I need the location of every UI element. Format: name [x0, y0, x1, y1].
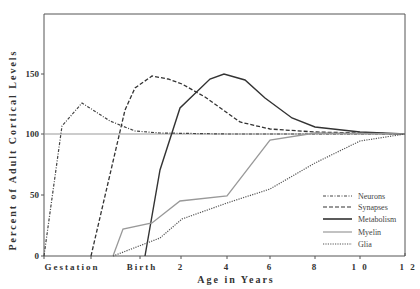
x-tick-label: 1 0: [351, 262, 368, 272]
y-tick-label: 50: [30, 190, 40, 200]
chart: 0 50 100 150 Gestation Birth 2 4 6 8 1 0…: [0, 0, 420, 289]
legend-label-neurons: Neurons: [358, 192, 385, 201]
legend-label-glia: Glia: [358, 240, 372, 249]
x-tick-label: 4: [224, 262, 231, 272]
legend-label-synapses: Synapses: [358, 203, 388, 212]
x-tick-label: 2: [178, 262, 185, 272]
legend: Neurons Synapses Metabolism Myelin Glia: [323, 192, 397, 249]
x-tick-label: 8: [312, 262, 319, 272]
y-tick-label: 0: [35, 251, 40, 261]
x-tick-label: 1 2: [399, 262, 416, 272]
legend-label-metabolism: Metabolism: [358, 215, 397, 224]
x-tick-label: 6: [267, 262, 274, 272]
x-axis-title: Age in Years: [197, 274, 275, 285]
y-tick-label: 150: [26, 69, 40, 79]
y-axis-title: Percent of Adult Cortical Levels: [7, 49, 18, 250]
y-tick-label: 100: [26, 129, 40, 139]
x-tick-label: Birth: [127, 262, 158, 272]
x-tick-label: Gestation: [45, 262, 100, 272]
legend-label-myelin: Myelin: [358, 228, 381, 237]
series-neurons: [44, 103, 405, 256]
